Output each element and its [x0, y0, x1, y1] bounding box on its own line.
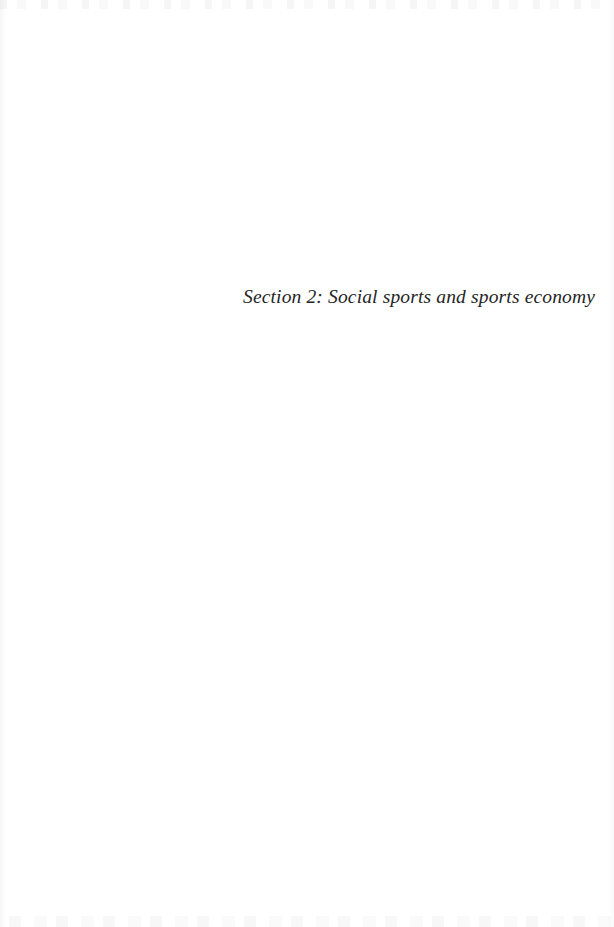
scan-artifact-top-band	[0, 0, 614, 9]
section-title: Section 2: Social sports and sports econ…	[243, 285, 553, 309]
scan-artifact-bottom-band	[0, 916, 614, 927]
scan-artifact-left-edge	[0, 0, 6, 927]
scan-artifact-right-edge	[608, 0, 614, 927]
document-page: Section 2: Social sports and sports econ…	[0, 0, 614, 927]
